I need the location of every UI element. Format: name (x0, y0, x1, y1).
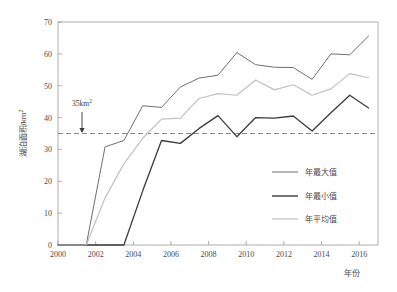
chart-container: 010203040506070 200020022004200620082010… (0, 0, 397, 292)
y-tick-label: 0 (48, 241, 52, 250)
legend-label-0: 年最大值 (305, 167, 337, 177)
y-axis-title: 湖泊面积/km2 (18, 110, 28, 158)
y-tick-label: 50 (44, 82, 52, 91)
y-tick-label: 30 (44, 145, 52, 154)
y-tick-label: 20 (44, 177, 52, 186)
annotation-superscript: 2 (89, 98, 92, 104)
x-tick-label: 2010 (238, 250, 254, 259)
y-tick-label: 40 (44, 114, 52, 123)
legend-label-2: 年平均值 (305, 214, 337, 224)
y-tick-label: 60 (44, 50, 52, 59)
x-tick-label: 2016 (351, 250, 367, 259)
annotation-label: 35km2 (72, 98, 92, 108)
y-tick-label: 70 (44, 18, 52, 27)
x-tick-label: 2008 (201, 250, 217, 259)
y-tick-label: 10 (44, 209, 52, 218)
chart-background (0, 0, 397, 292)
x-tick-label: 2004 (125, 250, 141, 259)
x-tick-label: 2014 (314, 250, 330, 259)
x-tick-label: 2002 (88, 250, 104, 259)
x-tick-label: 2012 (276, 250, 292, 259)
x-tick-label: 2000 (50, 250, 66, 259)
x-tick-label: 2006 (163, 250, 179, 259)
x-axis-title: 年份 (344, 268, 360, 278)
y-axis-title-superscript: 2 (18, 110, 24, 113)
legend-label-1: 年最小值 (305, 191, 337, 201)
lake-area-line-chart: 010203040506070 200020022004200620082010… (0, 0, 397, 292)
